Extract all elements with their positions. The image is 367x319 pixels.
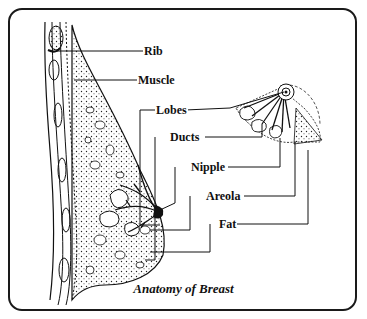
label-fat: Fat	[218, 218, 237, 230]
diagram-caption: Anatomy of Breast	[0, 281, 367, 297]
label-rib: Rib	[143, 45, 164, 57]
breast-anatomy-illustration	[0, 0, 367, 319]
label-nipple: Nipple	[190, 161, 226, 173]
label-muscle: Muscle	[137, 74, 176, 86]
label-areola: Areola	[205, 190, 241, 202]
label-ducts: Ducts	[169, 131, 200, 143]
label-lobes: Lobes	[155, 104, 188, 116]
breast-side-view	[72, 25, 164, 300]
